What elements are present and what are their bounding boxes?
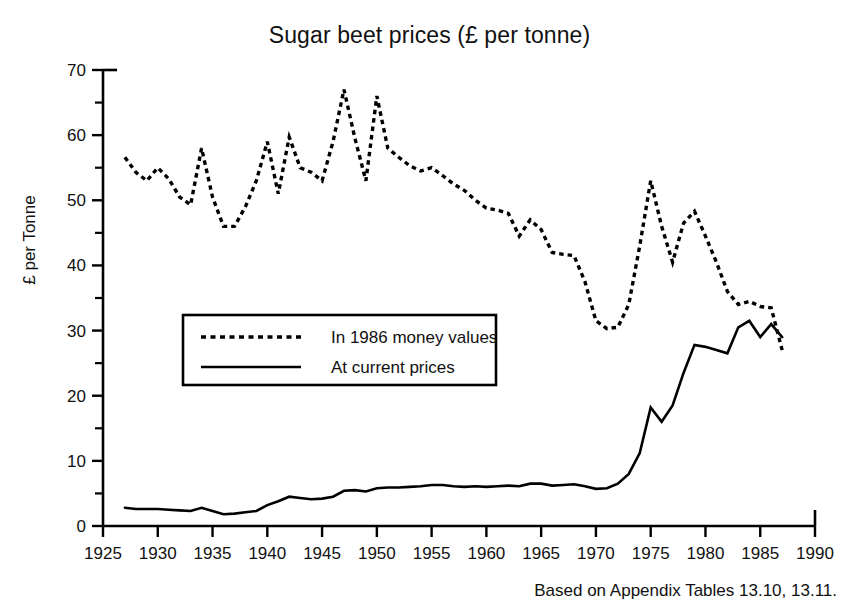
x-tick-label: 1930 <box>139 544 177 563</box>
y-tick-label: 30 <box>67 322 86 341</box>
chart-figure: Sugar beet prices (£ per tonne) £ per To… <box>0 0 859 613</box>
y-tick-label: 70 <box>67 61 86 80</box>
y-tick-label: 60 <box>67 126 86 145</box>
x-tick-label: 1925 <box>84 544 122 563</box>
x-tick-label: 1945 <box>303 544 341 563</box>
y-tick-label: 50 <box>67 191 86 210</box>
legend-label-2: At current prices <box>331 358 455 377</box>
x-tick-label: 1960 <box>467 544 505 563</box>
x-tick-label: 1990 <box>796 544 834 563</box>
line-chart-plot: 0102030405060701925193019351940194519501… <box>0 0 859 613</box>
x-tick-label: 1935 <box>194 544 232 563</box>
x-tick-label: 1970 <box>577 544 615 563</box>
y-tick-label: 40 <box>67 256 86 275</box>
x-tick-label: 1940 <box>248 544 286 563</box>
y-tick-label: 10 <box>67 452 86 471</box>
x-tick-label: 1975 <box>632 544 670 563</box>
x-tick-label: 1980 <box>687 544 725 563</box>
x-tick-label: 1950 <box>358 544 396 563</box>
y-tick-label: 20 <box>67 387 86 406</box>
y-tick-label: 0 <box>77 517 86 536</box>
x-tick-label: 1985 <box>741 544 779 563</box>
chart-footnote: Based on Appendix Tables 13.10, 13.11. <box>534 581 837 601</box>
x-tick-label: 1955 <box>413 544 451 563</box>
legend-label-1: In 1986 money values <box>331 328 497 347</box>
series-line-1 <box>125 90 782 351</box>
x-tick-label: 1965 <box>522 544 560 563</box>
